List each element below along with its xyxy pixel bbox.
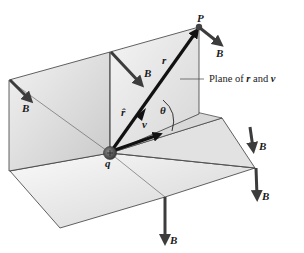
b-vector-5	[256, 168, 257, 196]
label-b-4: B	[259, 141, 266, 152]
label-p: P	[197, 13, 204, 24]
label-r: r	[162, 55, 166, 66]
field-diagram	[0, 0, 304, 253]
label-theta: θ	[160, 105, 166, 116]
label-b-2: B	[144, 68, 151, 79]
label-b-3: B	[216, 48, 223, 59]
b-vector-4	[250, 127, 253, 148]
label-q: q	[105, 158, 111, 169]
label-b-6: B	[170, 235, 177, 246]
label-v: v	[142, 119, 147, 130]
b-vector-3	[200, 28, 219, 43]
label-b-1: B	[22, 103, 29, 114]
label-r-hat: r̂	[121, 107, 125, 118]
plane-caption: Plane of r and v	[209, 74, 276, 85]
label-b-5: B	[262, 191, 269, 202]
